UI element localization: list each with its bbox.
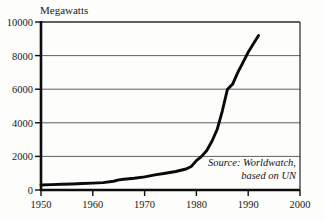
source-annotation-line1: Source: Worldwatch, bbox=[208, 157, 296, 168]
x-tick-label-2000: 2000 bbox=[290, 199, 311, 210]
x-tick-label-1970: 1970 bbox=[134, 199, 155, 210]
chart-figure: Megawatts 10000 8000 6000 4000 bbox=[0, 0, 325, 220]
y-tick-label-8000: 8000 bbox=[12, 51, 33, 62]
source-annotation-line2: based on UN bbox=[241, 170, 297, 181]
x-tick-label-1950: 1950 bbox=[31, 199, 52, 210]
y-tick-label-0: 0 bbox=[28, 185, 33, 196]
y-axis-title: Megawatts bbox=[40, 4, 88, 16]
x-tick-label-1960: 1960 bbox=[82, 199, 103, 210]
x-tick-label-1980: 1980 bbox=[186, 199, 207, 210]
x-tick-label-1990: 1990 bbox=[238, 199, 259, 210]
y-tick-label-6000: 6000 bbox=[12, 84, 33, 95]
chart-background bbox=[0, 0, 325, 220]
y-tick-label-2000: 2000 bbox=[12, 151, 33, 162]
megawatts-line-chart: Megawatts 10000 8000 6000 4000 bbox=[0, 0, 325, 220]
y-tick-label-4000: 4000 bbox=[12, 118, 33, 129]
y-tick-label-10000: 10000 bbox=[7, 17, 33, 28]
